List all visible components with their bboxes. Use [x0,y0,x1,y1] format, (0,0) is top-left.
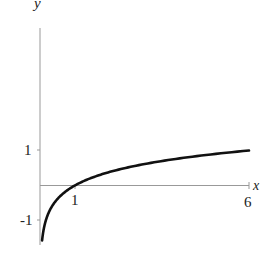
y-tick-label-neg1: -1 [20,212,33,228]
log-function-chart: y x 1 6 1 -1 [0,0,279,260]
y-tick-label-1: 1 [24,142,32,158]
x-axis-label: x [252,178,260,193]
x-tick-label-6: 6 [244,194,252,210]
x-tick-label-1: 1 [71,192,79,208]
y-axis-label: y [32,0,41,11]
